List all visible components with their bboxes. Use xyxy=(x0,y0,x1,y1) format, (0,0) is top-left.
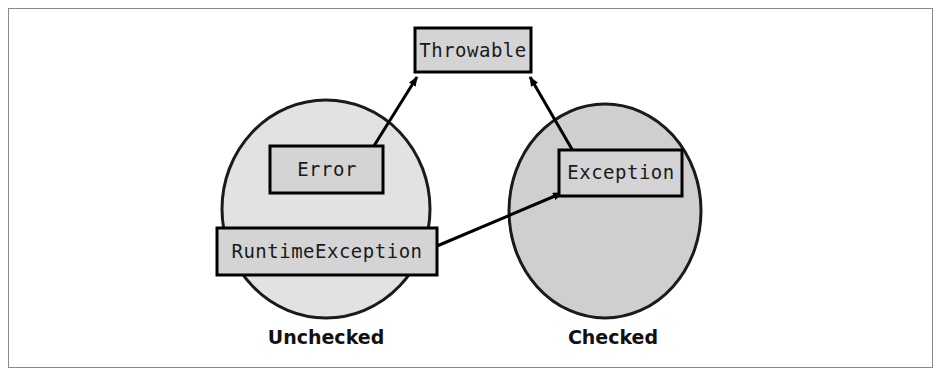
region-checked xyxy=(509,104,701,318)
checked-circle xyxy=(509,104,701,318)
runtimeexception-box-label: RuntimeException xyxy=(231,240,422,262)
error-box-label: Error xyxy=(297,158,357,180)
class-box-error: Error xyxy=(270,146,383,193)
region-unchecked xyxy=(222,100,430,318)
exception-hierarchy-figure: Throwable Error Exception RuntimeExcepti… xyxy=(0,0,943,378)
class-box-runtimeexception: RuntimeException xyxy=(217,228,437,275)
checked-region-label: Checked xyxy=(568,326,658,348)
throwable-box-label: Throwable xyxy=(419,39,526,61)
unchecked-circle xyxy=(222,100,430,318)
class-box-throwable: Throwable xyxy=(415,28,531,72)
unchecked-region-label: Unchecked xyxy=(268,326,385,348)
class-box-exception: Exception xyxy=(559,150,682,196)
exception-box-label: Exception xyxy=(567,161,674,183)
exception-hierarchy-diagram: Throwable Error Exception RuntimeExcepti… xyxy=(0,0,943,378)
